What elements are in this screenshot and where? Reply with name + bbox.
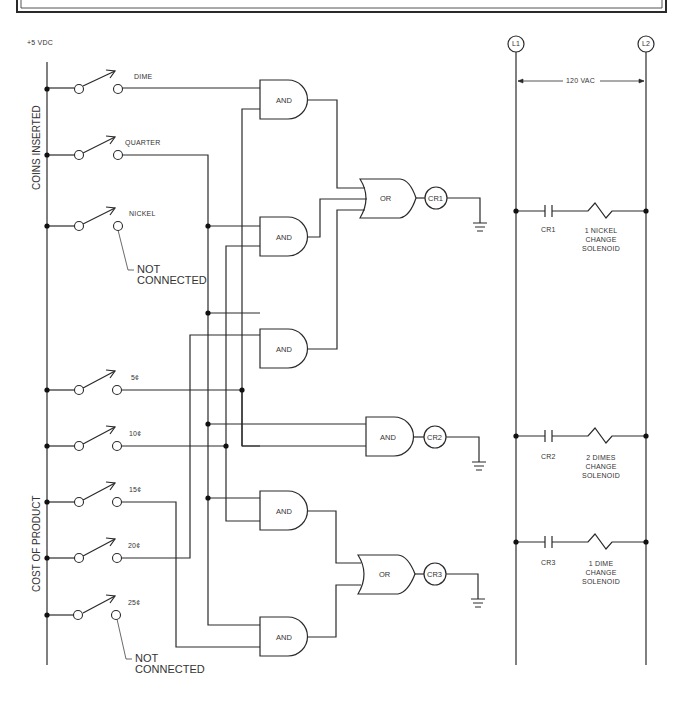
switch-label-10c: 10¢ <box>129 430 141 437</box>
rung3-contact-label: CR3 <box>541 559 556 566</box>
circuit-drawing <box>0 0 683 704</box>
or-gate-1: OR <box>380 194 391 203</box>
rung3-load-line3: SOLENOID <box>578 577 624 586</box>
switch-label-15c: 15¢ <box>129 486 141 493</box>
and-gate-2: AND <box>276 233 292 242</box>
switch-label-nickel: NICKEL <box>129 210 156 217</box>
switch-label-quarter: QUARTER <box>125 139 161 146</box>
group-label-cost-of-product: COST OF PRODUCT <box>31 496 42 592</box>
rung3-load-line2: CHANGE <box>578 568 624 577</box>
q25-not-connected-line2: CONNECTED <box>135 664 205 675</box>
rung2-load-label: 2 DIMES CHANGE SOLENOID <box>578 453 624 480</box>
and-gate-3: AND <box>276 345 292 354</box>
rung1-contact-label: CR1 <box>541 226 556 233</box>
switch-label-20c: 20¢ <box>128 542 140 549</box>
rung2-load-line2: CHANGE <box>578 462 624 471</box>
and-gate-4: AND <box>380 433 396 442</box>
rung1-load-line3: SOLENOID <box>578 244 624 253</box>
and-gate-5: AND <box>276 507 292 516</box>
rung2-contact-label: CR2 <box>541 453 556 460</box>
rung1-load-label: 1 NICKEL CHANGE SOLENOID <box>578 226 624 253</box>
rung1-load-line1: 1 NICKEL <box>578 226 624 235</box>
nickel-not-connected-line2: CONNECTED <box>137 275 207 286</box>
relay-coil-cr1: CR1 <box>428 194 443 203</box>
rung3-load-line1: 1 DIME <box>578 559 624 568</box>
rung1-load-line2: CHANGE <box>578 235 624 244</box>
or-gate-2: OR <box>379 570 390 579</box>
vending-change-logic-diagram: +5 VDC COINS INSERTED COST OF PRODUCT DI… <box>0 0 683 704</box>
and-gate-6: AND <box>276 633 292 642</box>
ladder-rail-l2: L2 <box>642 40 650 47</box>
switch-label-dime: DIME <box>134 73 152 80</box>
ladder-rail-l1: L1 <box>512 40 520 47</box>
switch-label-5c: 5¢ <box>131 374 139 381</box>
and-gate-1: AND <box>276 96 292 105</box>
relay-coil-cr3: CR3 <box>427 570 442 579</box>
rung3-load-label: 1 DIME CHANGE SOLENOID <box>578 559 624 586</box>
switch-label-25c: 25¢ <box>128 599 140 606</box>
ladder-voltage-label: 120 VAC <box>566 77 595 84</box>
group-label-coins-inserted: COINS INSERTED <box>31 105 42 190</box>
relay-coil-cr2: CR2 <box>427 433 442 442</box>
rung2-load-line3: SOLENOID <box>578 471 624 480</box>
supply-voltage-label: +5 VDC <box>27 39 53 46</box>
rung2-load-line1: 2 DIMES <box>578 453 624 462</box>
